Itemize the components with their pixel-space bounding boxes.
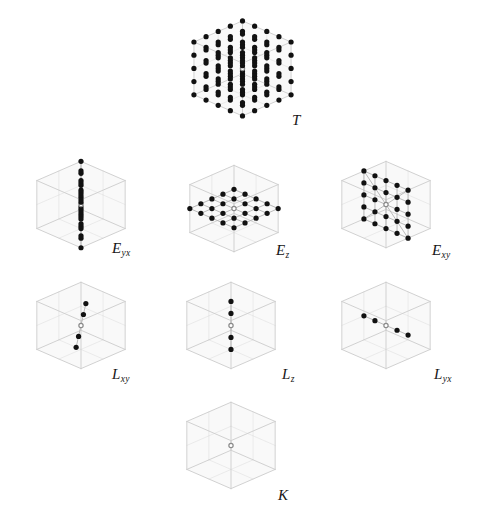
lattice-points	[78, 159, 83, 251]
lattice-diagram-lyx	[322, 272, 450, 384]
panel-label-lz: Lz	[282, 367, 294, 382]
panel-label-t: T	[292, 113, 301, 128]
panel-label-subscript: z	[291, 374, 295, 384]
lattice-diagram-exy	[322, 148, 450, 266]
panel-label-subscript: z	[286, 250, 290, 260]
panel-label-subscript: yx	[443, 374, 452, 384]
panel-label-lxy: Lxy	[112, 367, 129, 382]
panel-label-subscript: xy	[442, 250, 451, 260]
lattice-panel-t	[175, 4, 310, 138]
lattice-figure: TEyxEzExyLxyLzLyxK	[0, 0, 481, 518]
lattice-diagram-lz	[172, 272, 290, 384]
lattice-diagram-k	[172, 392, 290, 504]
panel-label-subscript: yx	[122, 248, 131, 258]
panel-label-subscript: xy	[121, 374, 130, 384]
lattice-panel-k	[172, 392, 290, 504]
panel-label-ez: Ez	[276, 243, 289, 258]
lattice-panel-lz	[172, 272, 290, 384]
panel-label-main: L	[434, 366, 443, 382]
panel-label-k: K	[278, 488, 288, 503]
panel-label-main: L	[282, 366, 291, 382]
panel-label-main: K	[278, 487, 288, 503]
panel-label-eyx: Eyx	[112, 241, 130, 256]
panel-label-main: E	[276, 242, 285, 258]
panel-label-main: E	[432, 242, 441, 258]
lattice-panel-lyx	[322, 272, 450, 384]
panel-label-main: L	[112, 366, 121, 382]
panel-label-main: T	[292, 112, 301, 128]
lattice-diagram-t	[175, 4, 310, 138]
lattice-panel-exy	[322, 148, 450, 266]
panel-label-lyx: Lyx	[434, 367, 451, 382]
panel-label-main: E	[112, 240, 121, 256]
lattice-points	[229, 443, 233, 447]
panel-label-exy: Exy	[432, 243, 450, 258]
